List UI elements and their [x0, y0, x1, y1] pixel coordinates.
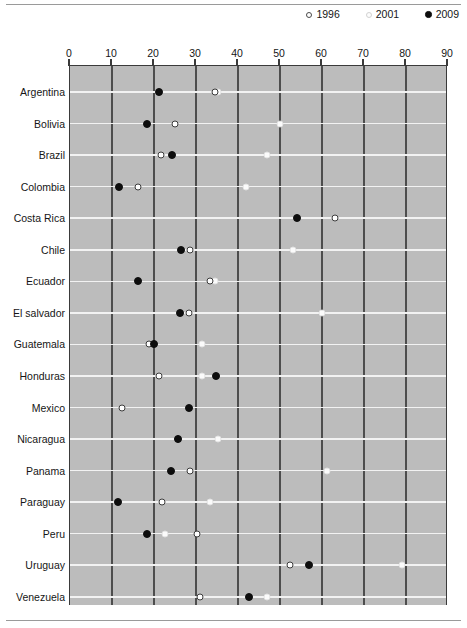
data-point-1996-honduras — [156, 372, 163, 379]
row-baseline — [70, 217, 446, 219]
category-label-nicaragua: Nicaragua — [0, 433, 65, 445]
x-tick-mark — [68, 59, 70, 66]
data-point-1996-peru — [193, 530, 200, 537]
gridline-vertical — [153, 66, 155, 605]
row-baseline — [70, 312, 446, 314]
data-point-2009-argentina — [155, 88, 163, 96]
data-point-2009-honduras — [212, 372, 220, 380]
gridline-vertical — [111, 66, 113, 605]
row-baseline — [70, 407, 446, 409]
data-point-2001-uruguay — [398, 562, 405, 569]
gridline-vertical — [195, 66, 197, 605]
data-point-1996-venezuela — [197, 593, 204, 600]
x-tick-mark — [278, 59, 280, 66]
bottom-divider — [6, 620, 461, 621]
x-tick-label: 80 — [399, 47, 411, 59]
data-point-2009-venezuela — [245, 593, 253, 601]
row-baseline — [70, 186, 446, 188]
category-label-argentina: Argentina — [0, 86, 65, 98]
row-baseline — [70, 123, 446, 125]
data-point-2001-brazil — [264, 152, 271, 159]
data-point-2001-el-salvador — [319, 309, 326, 316]
x-tick-label: 0 — [66, 47, 72, 59]
data-point-2009-uruguay — [305, 561, 313, 569]
data-point-2001-venezuela — [264, 593, 271, 600]
x-tick-mark — [110, 59, 112, 66]
data-point-2009-panama — [167, 467, 175, 475]
data-point-1996-brazil — [158, 152, 165, 159]
data-point-2001-bolivia — [277, 120, 284, 127]
row-baseline — [70, 249, 446, 251]
data-point-1996-colombia — [135, 183, 142, 190]
data-point-2009-peru — [143, 530, 151, 538]
data-point-2001-nicaragua — [214, 436, 221, 443]
category-label-chile: Chile — [0, 244, 65, 256]
legend-label: 2009 — [436, 9, 459, 20]
category-axis-labels: ArgentinaBoliviaBrazilColombiaCosta Rica… — [0, 66, 65, 605]
category-label-guatemala: Guatemala — [0, 338, 65, 350]
data-point-2001-panama — [324, 467, 331, 474]
row-baseline — [70, 501, 446, 503]
gridline-vertical — [237, 66, 239, 605]
category-label-honduras: Honduras — [0, 370, 65, 382]
row-baseline — [70, 154, 446, 156]
top-divider — [6, 4, 461, 5]
data-point-1996-mexico — [119, 404, 126, 411]
gridline-vertical — [321, 66, 323, 605]
data-point-1996-chile — [187, 246, 194, 253]
x-tick-mark — [404, 59, 406, 66]
legend-marker-open-circle-light-outline-icon — [366, 12, 372, 18]
row-baseline — [70, 470, 446, 472]
legend-label: 1996 — [316, 9, 339, 20]
row-baseline — [70, 281, 446, 283]
row-baseline — [70, 438, 446, 440]
x-tick-label: 50 — [273, 47, 285, 59]
legend-item-1996: 1996 — [306, 9, 339, 20]
x-tick-mark — [194, 59, 196, 66]
data-point-2001-paraguay — [206, 499, 213, 506]
x-tick-label: 70 — [357, 47, 369, 59]
data-point-2009-chile — [177, 246, 185, 254]
data-point-1996-panama — [187, 467, 194, 474]
data-point-1996-bolivia — [172, 120, 179, 127]
x-axis-tick-labels: 0102030405060708090 — [0, 47, 467, 61]
category-label-peru: Peru — [0, 528, 65, 540]
legend-marker-open-circle-dark-outline-icon — [306, 12, 312, 18]
x-tick-label: 30 — [189, 47, 201, 59]
data-point-2001-peru — [161, 530, 168, 537]
category-label-bolivia: Bolivia — [0, 118, 65, 130]
legend-label: 2001 — [376, 9, 399, 20]
row-baseline — [70, 564, 446, 566]
x-tick-mark — [320, 59, 322, 66]
row-baseline — [70, 533, 446, 535]
category-label-venezuela: Venezuela — [0, 591, 65, 603]
data-point-1996-paraguay — [158, 499, 165, 506]
data-point-2009-brazil — [168, 151, 176, 159]
data-point-2009-costa-rica — [293, 214, 301, 222]
category-label-el-salvador: El salvador — [0, 307, 65, 319]
gridline-vertical — [405, 66, 407, 605]
legend-item-2001: 2001 — [366, 9, 399, 20]
data-point-2009-el-salvador — [176, 309, 184, 317]
data-point-2009-ecuador — [134, 277, 142, 285]
data-point-2009-paraguay — [114, 498, 122, 506]
data-point-1996-costa-rica — [331, 215, 338, 222]
gridline-vertical — [363, 66, 365, 605]
x-tick-label: 40 — [231, 47, 243, 59]
x-tick-mark — [446, 59, 448, 66]
data-point-2001-chile — [289, 246, 296, 253]
data-point-2009-bolivia — [143, 120, 151, 128]
category-label-brazil: Brazil — [0, 149, 65, 161]
data-point-2009-mexico — [185, 404, 193, 412]
category-label-paraguay: Paraguay — [0, 496, 65, 508]
data-point-2009-colombia — [115, 183, 123, 191]
category-label-panama: Panama — [0, 465, 65, 477]
data-point-2001-honduras — [198, 372, 205, 379]
data-point-2009-guatemala — [150, 340, 158, 348]
category-label-costa-rica: Costa Rica — [0, 212, 65, 224]
row-baseline — [70, 344, 446, 346]
data-point-1996-uruguay — [287, 562, 294, 569]
x-tick-label: 10 — [105, 47, 117, 59]
x-tick-label: 60 — [315, 47, 327, 59]
gridline-vertical — [279, 66, 281, 605]
